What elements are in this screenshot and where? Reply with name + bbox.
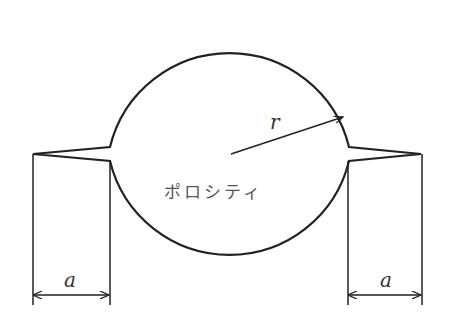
porosity-label: ポロシティ <box>164 178 263 203</box>
pore-outline <box>33 53 421 255</box>
right-width-label: a <box>380 268 392 292</box>
radius-label: r <box>270 110 280 134</box>
left-width-label: a <box>64 268 76 292</box>
radius-arrow <box>231 117 343 154</box>
